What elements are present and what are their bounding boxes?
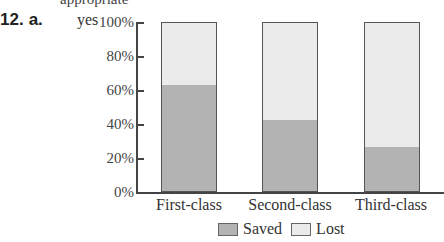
stacked-bar-chart: 100% 80% 60% 40% 20% 0% First-class Seco… bbox=[0, 0, 444, 242]
bar-first-class bbox=[161, 22, 217, 192]
y-tick-100 bbox=[137, 22, 144, 24]
bar-segment-saved bbox=[365, 147, 419, 191]
legend-label-saved: Saved bbox=[243, 220, 282, 238]
y-tick-40 bbox=[137, 124, 144, 126]
x-label-second-class: Second-class bbox=[235, 196, 345, 214]
x-axis bbox=[136, 192, 444, 194]
y-tick-label-20: 20% bbox=[94, 150, 134, 166]
legend-item-saved: Saved bbox=[218, 220, 282, 238]
y-tick-label-40: 40% bbox=[94, 116, 134, 132]
x-label-third-class: Third-class bbox=[336, 196, 444, 214]
y-tick-80 bbox=[137, 56, 144, 58]
legend-label-lost: Lost bbox=[316, 220, 344, 238]
bar-segment-lost bbox=[365, 23, 419, 147]
y-axis bbox=[136, 22, 138, 194]
y-tick-label-0: 0% bbox=[94, 184, 134, 200]
legend: Saved Lost bbox=[218, 220, 354, 238]
y-tick-label-80: 80% bbox=[94, 48, 134, 64]
saved-swatch-icon bbox=[218, 223, 238, 236]
bar-third-class bbox=[364, 22, 420, 192]
x-label-first-class: First-class bbox=[134, 196, 244, 214]
y-tick-20 bbox=[137, 158, 144, 160]
bar-segment-saved bbox=[263, 120, 317, 191]
legend-item-lost: Lost bbox=[291, 220, 344, 238]
bar-second-class bbox=[262, 22, 318, 192]
y-tick-60 bbox=[137, 90, 144, 92]
y-tick-label-60: 60% bbox=[94, 82, 134, 98]
bar-segment-saved bbox=[162, 85, 216, 191]
bar-segment-lost bbox=[162, 23, 216, 85]
bar-segment-lost bbox=[263, 23, 317, 120]
y-tick-label-100: 100% bbox=[94, 14, 134, 30]
lost-swatch-icon bbox=[291, 223, 311, 236]
